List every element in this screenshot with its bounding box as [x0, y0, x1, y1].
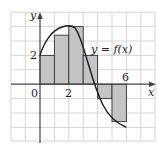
y-axis-label: y	[29, 9, 37, 22]
riemann-sum-diagram: y x 0 2 6 2 y = f(x)	[0, 0, 158, 149]
x-axis-label: x	[148, 86, 155, 99]
curve-label: y = f(x)	[90, 43, 132, 56]
rectangle-2	[54, 35, 68, 84]
x-tick-label-6: 6	[122, 71, 129, 84]
y-axis-arrow-icon	[37, 12, 43, 19]
y-tick-label-2: 2	[30, 49, 37, 62]
rectangle-3	[69, 27, 83, 85]
rectangle-1	[40, 55, 54, 84]
rectangle-6	[112, 84, 126, 121]
origin-label: 0	[31, 87, 38, 100]
x-tick-label-2: 2	[65, 87, 72, 100]
